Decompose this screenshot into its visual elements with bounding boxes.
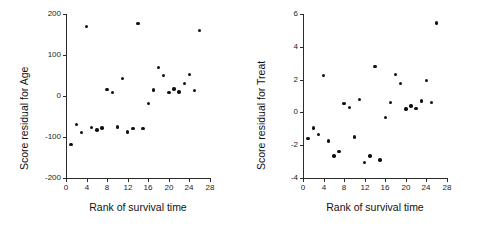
figure-root: -200-10001002000481216202428Rank of surv… [0,0,479,231]
y-tick-label: 0 [30,92,61,100]
x-tick-label: 4 [77,184,97,192]
x-tick-label: 24 [179,184,199,192]
data-point [435,21,438,24]
y-axis-title: Score residual for Treat [255,61,267,170]
data-point [172,87,175,90]
data-point [167,91,170,94]
data-point [425,79,428,82]
x-tick-mark [148,179,149,182]
y-tick-mark [300,80,303,81]
x-tick-mark [365,179,366,182]
y-tick-mark [63,14,66,15]
x-tick-mark [426,179,427,182]
x-tick-mark [169,179,170,182]
data-point [389,101,392,104]
y-tick-mark [300,14,303,15]
y-tick-label: 6 [267,10,298,18]
x-tick-label: 20 [396,184,416,192]
data-point [183,82,186,85]
x-tick-mark [210,179,211,182]
y-axis-title: Score residual for Age [18,67,30,170]
data-point [430,101,433,104]
y-tick-label: -100 [30,133,61,141]
data-point [368,154,371,157]
data-point [157,66,160,69]
y-tick-mark [300,112,303,113]
data-point [147,102,150,105]
y-tick-label: 4 [267,43,298,51]
data-point [353,135,356,138]
data-point [399,82,402,85]
data-point [384,116,387,119]
y-tick-label: -4 [267,174,298,182]
x-tick-mark [107,179,108,182]
x-tick-label: 8 [97,184,117,192]
x-tick-label: 8 [334,184,354,192]
data-point [404,107,407,110]
x-tick-mark [385,179,386,182]
data-point [337,150,340,153]
x-tick-mark [324,179,325,182]
data-point [414,107,417,110]
data-point [327,139,330,142]
data-point [193,89,196,92]
data-point [177,90,180,93]
y-tick-label: 0 [267,108,298,116]
data-point [121,77,124,80]
x-tick-mark [66,179,67,182]
y-axis-line [303,14,304,179]
data-point [80,131,83,134]
y-tick-mark [63,137,66,138]
data-point [75,123,78,126]
data-point [358,98,361,101]
data-point [322,74,325,77]
data-point [342,102,345,105]
x-tick-mark [87,179,88,182]
y-tick-label: 200 [30,10,61,18]
data-point [69,143,72,146]
x-tick-label: 4 [314,184,334,192]
y-tick-mark [300,145,303,146]
data-point [162,74,165,77]
x-tick-label: 0 [293,184,313,192]
x-tick-label: 28 [200,184,220,192]
data-point [111,91,114,94]
data-point [198,29,201,32]
x-tick-label: 12 [118,184,138,192]
data-point [85,25,88,28]
data-point [317,133,320,136]
x-tick-label: 24 [416,184,436,192]
data-point [306,137,309,140]
y-tick-mark [300,47,303,48]
x-tick-mark [303,179,304,182]
y-tick-mark [63,55,66,56]
data-point [100,126,103,129]
data-point [394,73,397,76]
x-tick-label: 12 [355,184,375,192]
data-point [420,99,423,102]
x-tick-label: 28 [437,184,457,192]
x-tick-mark [406,179,407,182]
x-tick-mark [128,179,129,182]
data-point [105,88,108,91]
x-tick-label: 20 [159,184,179,192]
data-point [116,125,119,128]
y-tick-label: -200 [30,174,61,182]
x-tick-mark [344,179,345,182]
x-tick-label: 16 [138,184,158,192]
data-point [152,88,155,91]
data-point [136,22,139,25]
data-point [378,158,381,161]
y-tick-mark [63,96,66,97]
x-tick-label: 16 [375,184,395,192]
data-point [126,130,129,133]
data-point [373,65,376,68]
scatter-panel-treat: -4-202460481216202428Rank of survival ti… [240,0,479,231]
x-axis-title: Rank of survival time [303,201,447,213]
data-point [363,161,366,164]
data-point [90,126,93,129]
data-point [188,73,191,76]
data-point [409,104,412,107]
y-tick-label: 100 [30,51,61,59]
y-tick-label: 2 [267,76,298,84]
